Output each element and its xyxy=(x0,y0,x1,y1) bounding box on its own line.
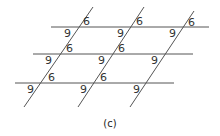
angle-label: 6 xyxy=(48,71,55,84)
angle-label: 9 xyxy=(80,83,87,96)
angle-label: 9 xyxy=(151,54,158,67)
figure-caption: (c) xyxy=(103,118,116,129)
angle-label: 9 xyxy=(45,54,52,67)
angle-label: 6 xyxy=(118,42,125,55)
angle-label: 6 xyxy=(100,71,107,84)
angle-label: 6 xyxy=(136,15,143,28)
parallel-lines-diagram: 6969696969969699 (c) xyxy=(0,0,220,136)
angle-label: 9 xyxy=(27,83,34,96)
angle-label: 9 xyxy=(133,83,140,96)
angle-label: 9 xyxy=(98,54,105,67)
angle-label: 6 xyxy=(83,15,90,28)
angle-label: 9 xyxy=(64,27,71,40)
angle-label: 9 xyxy=(117,27,124,40)
angle-label: 6 xyxy=(66,42,73,55)
angle-label: 9 xyxy=(169,27,176,40)
angle-label: 6 xyxy=(188,16,195,29)
